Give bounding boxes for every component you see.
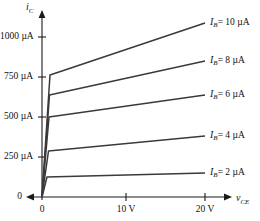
curve-label-ib-10ua-value: = 10 µA: [218, 17, 250, 27]
curve-ib-4ua: [42, 136, 205, 197]
curve-label-ib-8ua: IB= 8 µA: [210, 55, 245, 68]
transistor-output-characteristics-figure: 1000 µA 750 µA 500 µA 250 µA 0 0 10 V 20…: [0, 0, 260, 221]
y-tick-label-1000: 1000 µA: [0, 32, 33, 42]
x-axis-left-arrow: [26, 194, 34, 201]
y-tick-label-250: 250 µA: [0, 152, 33, 162]
x-tick-label-0: 0: [40, 205, 45, 215]
curve-label-ib-6ua-value: = 6 µA: [218, 89, 245, 99]
y-axis-arrow: [39, 10, 46, 18]
y-tick-label-500: 500 µA: [0, 112, 33, 122]
curve-label-ib-10ua: IB= 10 µA: [210, 17, 250, 30]
curves-group: [42, 23, 205, 197]
x-axis-arrow: [224, 194, 232, 201]
curve-label-ib-4ua: IB= 4 µA: [210, 130, 245, 143]
curve-ib-2ua: [42, 173, 205, 197]
curve-label-ib-4ua-value: = 4 µA: [218, 130, 245, 140]
curve-label-ib-6ua: IB= 6 µA: [210, 89, 245, 102]
curve-label-ib-2ua: IB= 2 µA: [210, 167, 245, 180]
curve-ib-10ua: [42, 23, 205, 197]
x-axis-label-sub: CE: [240, 198, 249, 206]
y-axis-label: iC: [26, 2, 33, 15]
y-tick-label-0: 0: [0, 192, 22, 202]
y-tick-label-750: 750 µA: [0, 72, 33, 82]
x-tick-label-10v: 10 V: [117, 205, 136, 215]
chart-plot-area: [0, 0, 260, 221]
curve-label-ib-8ua-value: = 8 µA: [218, 55, 245, 65]
y-axis-label-sub: C: [29, 7, 34, 15]
x-tick-label-20v: 20 V: [196, 205, 215, 215]
curve-label-ib-2ua-value: = 2 µA: [218, 167, 245, 177]
x-axis-label: vCE: [236, 193, 249, 206]
curve-ib-6ua: [42, 95, 205, 197]
